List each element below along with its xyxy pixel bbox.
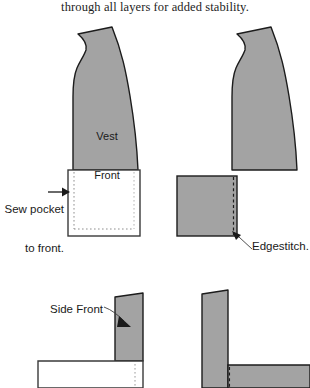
side-front-shape-joined (202, 290, 228, 388)
edgestitch-leader-line (239, 237, 252, 249)
label-vest-front: Vest Front (84, 104, 130, 208)
figure-top-right (177, 27, 297, 249)
pocket-shape-bottom-right (228, 365, 310, 388)
label-vest-front-line2: Front (84, 169, 130, 182)
label-side-front: Side Front (50, 303, 103, 316)
label-edgestitch: Edgestitch. (252, 240, 309, 253)
figure-bottom-right (202, 290, 310, 388)
label-vest-front-line1: Vest (84, 130, 130, 143)
pocket-shape-bottom-left (38, 361, 143, 388)
vest-front-shape-stitched (232, 27, 297, 170)
pocket-shape-stitched (177, 176, 237, 236)
sewing-instruction-diagram: through all layers for added stability. (0, 0, 310, 388)
label-sew-pocket-line1: Sew pocket (2, 203, 64, 216)
label-sew-pocket-line2: to front. (2, 242, 64, 255)
label-sew-pocket-to-front: Sew pocket to front. (2, 177, 64, 281)
